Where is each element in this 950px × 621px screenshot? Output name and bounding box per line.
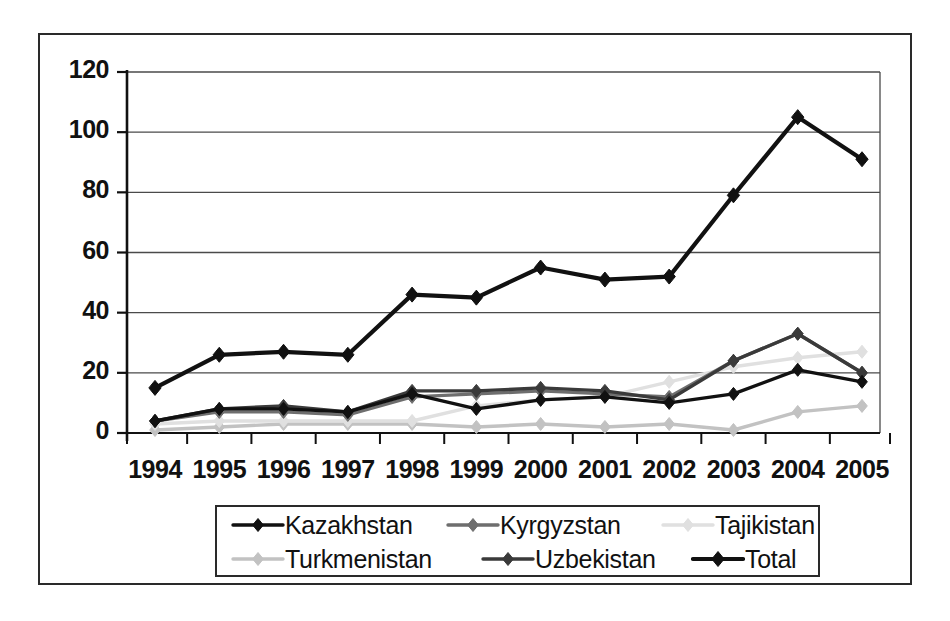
legend-item-kazakhstan[interactable]: Kazakhstan (231, 507, 446, 543)
legend-marker-icon (691, 548, 745, 570)
legend-item-tajikistan[interactable]: Tajikistan (661, 507, 821, 543)
legend-marker-icon (446, 514, 500, 536)
y-tick-label: 100 (39, 115, 109, 144)
legend-item-label: Turkmenistan (285, 545, 432, 574)
y-tick-label: 120 (39, 55, 109, 84)
legend-row-bottom: TurkmenistanUzbekistanTotal (217, 541, 818, 577)
legend-item-turkmenistan[interactable]: Turkmenistan (231, 541, 481, 577)
y-tick-label: 0 (39, 416, 109, 445)
x-tick-label: 2005 (817, 455, 907, 484)
y-tick-label: 40 (39, 296, 109, 325)
legend-marker-icon (661, 514, 715, 536)
legend-marker-icon (481, 548, 535, 570)
y-tick-label: 20 (39, 356, 109, 385)
legend-item-label: Total (745, 545, 796, 574)
y-tick-label: 80 (39, 175, 109, 204)
legend-row-top: KazakhstanKyrgyzstanTajikistan (217, 507, 818, 543)
legend-item-label: Kazakhstan (285, 511, 413, 540)
legend-item-kyrgyzstan[interactable]: Kyrgyzstan (446, 507, 661, 543)
legend-item-label: Tajikistan (715, 511, 815, 540)
chart-legend: KazakhstanKyrgyzstanTajikistan Turkmenis… (215, 505, 820, 577)
legend-item-label: Kyrgyzstan (500, 511, 621, 540)
legend-item-label: Uzbekistan (535, 545, 656, 574)
chart-figure: 020406080100120 199419951996199719981999… (0, 0, 950, 621)
legend-marker-icon (231, 514, 285, 536)
y-tick-label: 60 (39, 236, 109, 265)
legend-item-uzbekistan[interactable]: Uzbekistan (481, 541, 691, 577)
legend-marker-icon (231, 548, 285, 570)
legend-item-total[interactable]: Total (691, 541, 821, 577)
